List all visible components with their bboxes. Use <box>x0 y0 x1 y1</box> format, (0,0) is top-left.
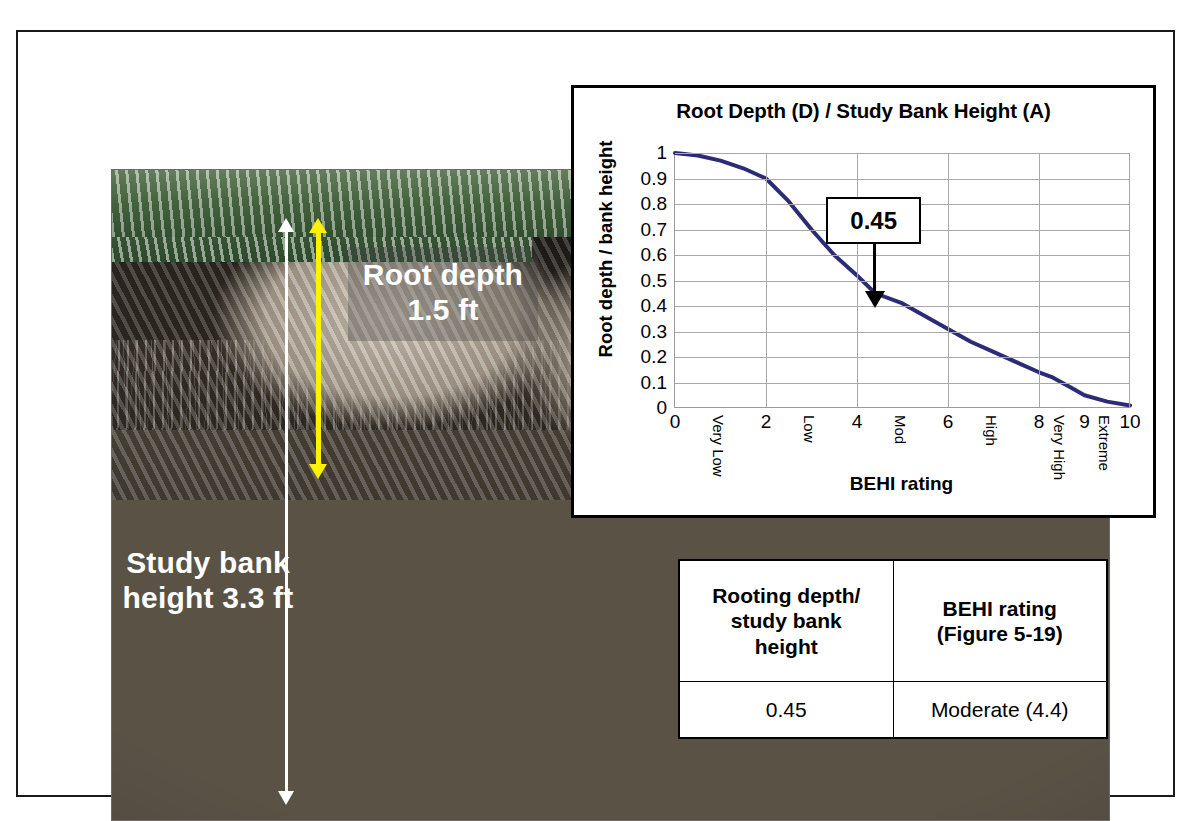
behi-results-table: Rooting depth/ study bank height BEHI ra… <box>678 559 1108 739</box>
study-bank-height-arrow <box>285 229 288 794</box>
study-bank-height-caption: Study bank height 3.3 ft <box>122 545 294 615</box>
chart-x-category-label: Extreme <box>1096 415 1113 471</box>
table-header-row: Rooting depth/ study bank height BEHI ra… <box>679 560 1107 682</box>
table-row: 0.45 Moderate (4.4) <box>679 682 1107 739</box>
chart-hgridline <box>675 281 1129 282</box>
chart-y-tick-label: 0.5 <box>623 270 667 292</box>
figure-outer-frame: Root depth 1.5 ft Study bank height 3.3 … <box>16 30 1175 797</box>
chart-hgridline <box>675 332 1129 333</box>
chart-y-tick-label: 0.8 <box>623 193 667 215</box>
header-line: height <box>755 635 818 658</box>
chart-title: Root Depth (D) / Study Bank Height (A) <box>574 99 1153 123</box>
chart-x-tick-label: 0 <box>660 411 690 433</box>
arrow-head-up-icon <box>278 218 294 232</box>
chart-x-axis-label: BEHI rating <box>674 473 1129 495</box>
chart-vgridline <box>1039 153 1040 407</box>
chart-x-category-label: Low <box>801 415 818 443</box>
chart-y-tick-label: 1 <box>623 142 667 164</box>
chart-vgridline <box>766 153 767 407</box>
chart-x-tick-label: 8 <box>1024 411 1054 433</box>
chart-y-tick-label: 0.7 <box>623 219 667 241</box>
cell-behi-rating: Moderate (4.4) <box>893 682 1107 739</box>
root-depth-arrow <box>316 230 321 467</box>
chart-y-tick-label: 0.2 <box>623 346 667 368</box>
header-line: study bank <box>731 609 842 632</box>
arrow-head-down-icon <box>278 791 294 805</box>
chart-x-category-label: Mod <box>892 415 909 444</box>
chart-y-tick-label: 0.3 <box>623 321 667 343</box>
arrow-head-down-icon <box>865 291 885 308</box>
chart-vgridline <box>857 153 858 407</box>
chart-x-category-label: Very Low <box>710 415 727 477</box>
chart-x-tick-label: 9 <box>1070 411 1100 433</box>
root-depth-caption: Root depth 1.5 ft <box>348 247 538 341</box>
chart-x-tick-label: 10 <box>1115 411 1145 433</box>
chart-x-tick-label: 2 <box>751 411 781 433</box>
chart-x-category-label: Very High <box>1051 415 1068 480</box>
table-header-behi-rating: BEHI rating (Figure 5-19) <box>893 560 1107 682</box>
chart-hgridline <box>675 255 1129 256</box>
header-line: Rooting depth/ <box>712 584 860 607</box>
chart-y-tick-label: 0.4 <box>623 295 667 317</box>
chart-hgridline <box>675 357 1129 358</box>
chart-plot-right-border <box>1129 153 1130 407</box>
chart-hgridline <box>675 153 1129 154</box>
chart-hgridline <box>675 306 1129 307</box>
callout-down-arrow-icon <box>873 244 876 293</box>
chart-hgridline <box>675 179 1129 180</box>
chart-x-tick-label: 4 <box>842 411 872 433</box>
arrow-head-down-icon <box>309 464 327 479</box>
header-line: BEHI rating <box>943 597 1057 620</box>
chart-y-tick-label: 0.9 <box>623 168 667 190</box>
header-line: (Figure 5-19) <box>937 622 1063 645</box>
chart-hgridline <box>675 383 1129 384</box>
table-header-rooting-depth-ratio: Rooting depth/ study bank height <box>679 560 893 682</box>
chart-vgridline <box>948 153 949 407</box>
behi-root-depth-chart-panel: Root Depth (D) / Study Bank Height (A) R… <box>571 85 1156 518</box>
callout-value-box: 0.45 <box>826 197 921 244</box>
chart-x-tick-label: 6 <box>933 411 963 433</box>
chart-y-axis-label: Root depth / bank height <box>595 129 617 369</box>
chart-plot-area: 10.90.80.70.60.50.40.30.20.1002468910Ver… <box>674 153 1129 408</box>
cell-rooting-depth-ratio: 0.45 <box>679 682 893 739</box>
chart-y-tick-label: 0.1 <box>623 372 667 394</box>
chart-y-tick-label: 0.6 <box>623 244 667 266</box>
arrow-head-up-icon <box>309 218 327 233</box>
chart-x-category-label: High <box>983 415 1000 446</box>
